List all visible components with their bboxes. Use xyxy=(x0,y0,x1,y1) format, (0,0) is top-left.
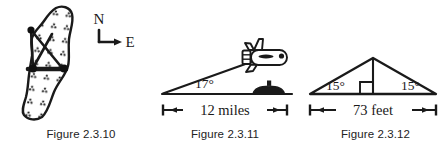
compass-north-label: N xyxy=(94,11,105,27)
figure-2-3-11-artwork: 17° xyxy=(150,0,300,126)
dimension-arrowhead-right xyxy=(273,107,280,113)
figure-2-3-10-artwork: N E xyxy=(0,0,150,126)
figure-2-3-12-artwork: 15° 15° 73 feet xyxy=(300,0,447,126)
angle-label-17: 17° xyxy=(195,76,214,91)
right-angle-marker xyxy=(360,82,373,94)
figure-2-3-11: 17° xyxy=(150,0,300,153)
compass-east-arrowhead xyxy=(114,38,122,45)
base-label-73-feet: 73 feet xyxy=(353,102,393,118)
figure-2-3-12-caption: Figure 2.3.12 xyxy=(300,128,447,140)
dimension-73-feet: 73 feet xyxy=(310,101,436,119)
figure-2-3-10-caption: Figure 2.3.10 xyxy=(0,128,156,140)
figure-2-3-10: N E Figure 2.3.10 xyxy=(0,0,150,153)
compass-east-label: E xyxy=(125,34,134,50)
figure-2-3-11-caption: Figure 2.3.11 xyxy=(150,128,300,140)
dimension-arrowhead-right xyxy=(422,107,429,113)
dimension-12-miles: 12 miles xyxy=(163,101,287,119)
compass-rose: N E xyxy=(94,11,135,50)
figures-row: N E Figure 2.3.10 17° xyxy=(0,0,447,153)
figure-2-3-12: 15° 15° 73 feet Figure 2.3.12 xyxy=(300,0,447,153)
distance-label-12-miles: 12 miles xyxy=(200,102,250,118)
airplane-icon xyxy=(243,39,288,72)
lake-shape-outline xyxy=(23,7,73,120)
dimension-arrowhead-left xyxy=(317,107,324,113)
dimension-arrowhead-left xyxy=(170,107,177,113)
angle-label-right-15: 15° xyxy=(401,78,420,93)
angle-label-left-15: 15° xyxy=(326,78,345,93)
submarine-icon xyxy=(253,81,285,94)
